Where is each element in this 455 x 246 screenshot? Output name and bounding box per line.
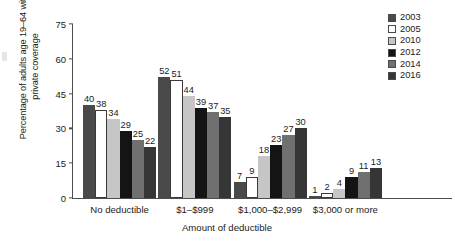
bar: 29 — [120, 131, 132, 198]
legend-swatch-icon — [388, 49, 396, 57]
bar: 13 — [370, 168, 382, 198]
bar-fill — [158, 77, 170, 198]
bar-value-label: 7 — [237, 171, 242, 181]
bar-fill — [309, 196, 321, 198]
bar-value-label: 27 — [283, 124, 293, 134]
legend-swatch-icon — [388, 72, 396, 80]
y-tick-mark — [69, 93, 73, 94]
legend-item: 2003 — [388, 12, 421, 24]
bar: 18 — [258, 156, 270, 198]
bar: 9 — [246, 177, 258, 198]
x-category-label: $1,000–$2,999 — [238, 204, 302, 215]
bar-chart-figure: Percentage of adults age 19–64 with priv… — [0, 0, 455, 246]
bar: 7 — [234, 182, 246, 198]
bar-value-label: 40 — [84, 94, 94, 104]
legend-label: 2014 — [400, 60, 421, 69]
y-tick-mark — [69, 163, 73, 164]
bar: 25 — [132, 140, 144, 198]
x-axis-line — [72, 198, 452, 199]
page-edge-artifact — [2, 52, 7, 61]
bar-value-label: 25 — [133, 129, 143, 139]
bar-value-label: 11 — [359, 161, 369, 171]
bar: 22 — [144, 147, 156, 198]
legend: 200320052010201220142016 — [388, 12, 421, 82]
legend-label: 2005 — [400, 25, 421, 34]
y-axis-line — [72, 24, 73, 198]
legend-item: 2010 — [388, 35, 421, 47]
bar: 2 — [321, 193, 333, 198]
bar-value-label: 9 — [349, 166, 354, 176]
bar-fill — [183, 96, 195, 198]
bar-fill — [370, 168, 382, 198]
bar: 35 — [219, 117, 231, 198]
bar-fill — [144, 147, 156, 198]
bar-value-label: 34 — [108, 108, 118, 118]
bar-fill — [358, 172, 370, 198]
bar: 1 — [309, 196, 321, 198]
bar: 27 — [282, 135, 294, 198]
bar: 9 — [345, 177, 357, 198]
bar: 44 — [183, 96, 195, 198]
bar-value-label: 52 — [159, 66, 169, 76]
bar-fill — [120, 131, 132, 198]
bar-fill — [83, 105, 95, 198]
bar-fill — [95, 110, 107, 198]
legend-item: 2014 — [388, 58, 421, 70]
legend-item: 2016 — [388, 70, 421, 82]
bar-value-label: 44 — [184, 85, 194, 95]
bar: 39 — [195, 108, 207, 198]
bar-value-label: 2 — [324, 182, 329, 192]
bar-value-label: 18 — [259, 145, 269, 155]
bar: 37 — [207, 112, 219, 198]
bar-value-label: 1 — [312, 185, 317, 195]
bar: 11 — [358, 172, 370, 198]
bar: 51 — [170, 80, 182, 198]
bar-group: 525144393735 — [158, 24, 231, 198]
bar-fill — [246, 177, 258, 198]
legend-item: 2012 — [388, 47, 421, 59]
bar-fill — [132, 140, 144, 198]
bar-value-label: 22 — [145, 136, 155, 146]
bar-value-label: 35 — [220, 106, 230, 116]
bar: 4 — [333, 189, 345, 198]
legend-swatch-icon — [388, 60, 396, 68]
y-tick-mark — [69, 128, 73, 129]
y-tick-mark — [69, 197, 73, 198]
bar-fill — [295, 128, 307, 198]
bar-group: 403834292522 — [83, 24, 156, 198]
bar-fill — [321, 193, 333, 198]
bar-value-label: 9 — [249, 166, 254, 176]
bar-value-label: 39 — [196, 97, 206, 107]
bar-value-label: 29 — [121, 120, 131, 130]
bar-fill — [270, 145, 282, 198]
bar-fill — [170, 80, 182, 198]
bar-fill — [258, 156, 270, 198]
legend-item: 2005 — [388, 24, 421, 36]
bar: 38 — [95, 110, 107, 198]
bar-value-label: 23 — [271, 134, 281, 144]
legend-swatch-icon — [388, 14, 396, 22]
legend-label: 2010 — [400, 36, 421, 45]
bar: 34 — [107, 119, 119, 198]
bar-fill — [107, 119, 119, 198]
bar: 40 — [83, 105, 95, 198]
plot-area: 01530456075 4038342925225251443937357918… — [72, 24, 382, 198]
legend-swatch-icon — [388, 25, 396, 33]
bar-value-label: 13 — [371, 157, 381, 167]
bar-value-label: 30 — [295, 117, 305, 127]
x-category-label: $1–$999 — [176, 204, 213, 215]
bar-group: 7918232730 — [234, 24, 307, 198]
bar-fill — [345, 177, 357, 198]
legend-swatch-icon — [388, 37, 396, 45]
bar-value-label: 37 — [208, 101, 218, 111]
y-axis-title: Percentage of adults age 19–64 with priv… — [18, 0, 41, 154]
bar: 52 — [158, 77, 170, 198]
bar-fill — [219, 117, 231, 198]
legend-label: 2012 — [400, 48, 421, 57]
bar-fill — [234, 182, 246, 198]
bar: 23 — [270, 145, 282, 198]
bar-fill — [195, 108, 207, 198]
bar: 30 — [295, 128, 307, 198]
y-tick-mark — [69, 58, 73, 59]
x-category-label: No deductible — [90, 204, 149, 215]
